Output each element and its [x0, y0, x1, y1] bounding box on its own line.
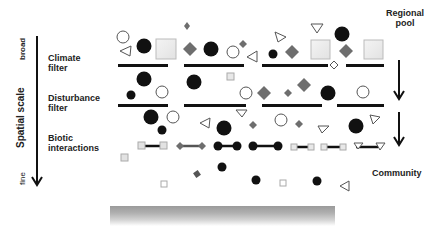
- diamond-pair-icon: [176, 142, 206, 150]
- filled-circle-icon: [217, 121, 232, 136]
- filled-circle-icon: [137, 72, 152, 87]
- filled-circle-icon: [187, 75, 202, 90]
- square-pair-icon: [291, 144, 314, 150]
- circle-pair-icon: [249, 142, 283, 151]
- filled-circle-icon: [313, 177, 322, 186]
- filled-circle-icon: [321, 86, 336, 101]
- grey-diamond-icon: [239, 40, 247, 48]
- filled-circle-icon: [204, 42, 219, 57]
- grey-diamond-icon: [285, 45, 299, 59]
- open-triangle-icon: [370, 115, 380, 124]
- grey-diamond-icon: [183, 42, 197, 56]
- light-square-icon: [364, 40, 383, 59]
- triangle-pair-icon: [354, 143, 385, 150]
- open-circle-icon: [227, 46, 239, 58]
- open-circle-icon: [167, 111, 179, 123]
- grey-diamond-icon: [192, 169, 201, 178]
- open-circle-icon: [357, 86, 369, 98]
- open-triangle-icon: [340, 181, 349, 191]
- open-triangle-icon: [200, 118, 210, 128]
- filled-circle-icon: [269, 50, 278, 59]
- ground-strip: [110, 206, 335, 226]
- light-square-icon: [121, 154, 128, 161]
- filled-circle-icon: [218, 163, 227, 172]
- open-triangle-icon: [120, 46, 131, 56]
- grey-diamond-icon: [339, 44, 353, 58]
- grey-diamond-icon: [184, 22, 190, 30]
- filled-circle-icon: [144, 110, 159, 125]
- grey-diamond-icon: [297, 78, 311, 92]
- filled-circle-icon: [158, 126, 167, 135]
- grey-diamond-icon: [249, 121, 257, 129]
- light-square-icon: [161, 181, 167, 187]
- filled-circle-icon: [127, 91, 136, 100]
- open-diamond-icon: [330, 61, 338, 69]
- filled-circle-icon: [252, 176, 261, 185]
- light-square-icon: [280, 180, 286, 186]
- grey-diamond-icon: [284, 89, 292, 97]
- grey-diamond-icon: [295, 120, 303, 128]
- species-shapes: [0, 0, 441, 238]
- light-square-icon: [227, 73, 234, 80]
- open-circle-icon: [156, 86, 168, 98]
- open-triangle-icon: [247, 51, 257, 62]
- open-triangle-icon: [236, 110, 247, 117]
- filled-circle-icon: [349, 119, 364, 134]
- open-circle-icon: [275, 114, 287, 126]
- open-triangle-icon: [311, 24, 323, 33]
- open-circle-icon: [117, 31, 129, 43]
- open-triangle-icon: [318, 126, 329, 133]
- circle-pair-icon: [214, 142, 242, 151]
- light-square-icon: [311, 40, 330, 59]
- open-triangle-icon: [275, 32, 286, 42]
- filled-circle-icon: [137, 39, 152, 54]
- light-square-icon: [156, 39, 176, 59]
- filled-circle-icon: [335, 27, 350, 42]
- square-pair-icon: [321, 144, 346, 150]
- square-pair-icon: [138, 142, 167, 149]
- open-circle-icon: [240, 87, 252, 99]
- grey-diamond-icon: [257, 86, 271, 100]
